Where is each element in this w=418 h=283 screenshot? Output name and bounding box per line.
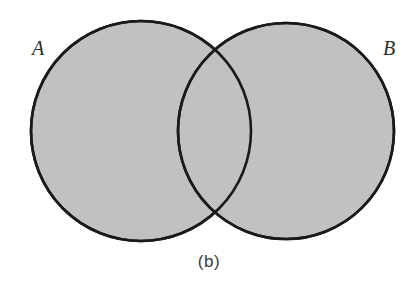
set-b-label: B (383, 38, 396, 58)
venn-figure: A B (b) (0, 0, 418, 283)
set-a-label: A (32, 38, 45, 58)
venn-diagram-canvas (0, 0, 418, 283)
figure-caption: (b) (0, 253, 418, 272)
